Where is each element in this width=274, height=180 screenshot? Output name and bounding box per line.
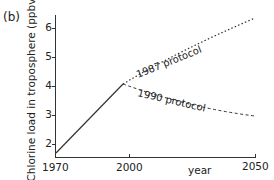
chart-plot: 1987 protocol 1990 protocol — [0, 0, 274, 180]
annotation-1990: 1990 protocol — [137, 87, 207, 113]
annotation-1987: 1987 protocol — [135, 44, 203, 80]
series-historical — [56, 84, 123, 153]
axes — [52, 15, 256, 158]
